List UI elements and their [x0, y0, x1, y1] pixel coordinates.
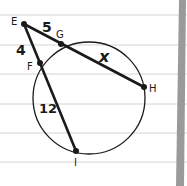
length-FI: 12: [39, 101, 57, 116]
length-EF: 4: [16, 42, 26, 58]
secant-EI: [24, 24, 76, 151]
label-E: E: [11, 16, 17, 27]
points: [21, 21, 147, 154]
point-F: [37, 60, 43, 66]
secant-diagram: E G F H I 5 4 x 12: [0, 0, 187, 186]
label-F: F: [27, 61, 33, 72]
length-EG: 5: [42, 19, 52, 35]
label-I: I: [74, 157, 77, 168]
point-G: [58, 41, 64, 47]
point-I: [73, 148, 79, 154]
point-E: [21, 21, 27, 27]
length-GH: x: [98, 47, 110, 66]
label-G: G: [56, 29, 64, 40]
point-H: [141, 84, 147, 90]
label-H: H: [149, 83, 157, 94]
margin-bar: [176, 0, 186, 186]
